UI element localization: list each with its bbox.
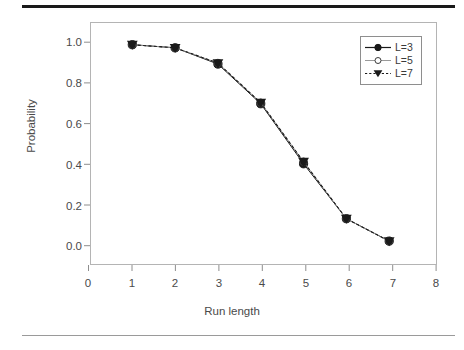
series-line	[132, 45, 389, 241]
series-line	[132, 45, 389, 241]
legend-swatch-open-circle-icon	[364, 54, 392, 67]
x-tick-label-6: 6	[337, 277, 361, 289]
series-l7	[127, 41, 395, 246]
y-tick-label-5: 0.2	[48, 200, 82, 212]
y-tick-label-6: 0.0	[48, 240, 82, 252]
y-tick-label-1: 1.0	[48, 36, 82, 48]
legend-swatch-filled-circle-icon	[364, 41, 392, 54]
plot-area: L=3 L=5 L=7	[90, 22, 437, 265]
y-axis-title: Probability	[25, 71, 37, 181]
series-line	[132, 45, 389, 241]
x-tick-label-4: 4	[250, 277, 274, 289]
y-tick-label-2: 0.8	[48, 77, 82, 89]
figure-bottom-rule	[22, 335, 455, 336]
series-l3	[128, 41, 393, 246]
x-tick-label-7: 7	[381, 277, 405, 289]
x-tick-label-5: 5	[294, 277, 318, 289]
series-l5	[129, 41, 393, 245]
x-tick-label-1: 1	[120, 277, 144, 289]
legend: L=3 L=5 L=7	[360, 36, 422, 85]
x-tick-label-2: 2	[163, 277, 187, 289]
x-tick-label-0: 0	[76, 277, 100, 289]
x-tick-label-3: 3	[207, 277, 231, 289]
legend-entry-l7: L=7	[364, 67, 417, 80]
x-tick-label-8: 8	[424, 277, 448, 289]
x-axis-title: Run length	[0, 305, 464, 317]
legend-label-l3: L=3	[392, 41, 413, 54]
y-tick-label-4: 0.4	[48, 159, 82, 171]
legend-label-l7: L=7	[392, 67, 413, 80]
legend-entry-l3: L=3	[364, 41, 417, 54]
legend-entry-l5: L=5	[364, 54, 417, 67]
y-tick-label-3: 0.6	[48, 118, 82, 130]
legend-label-l5: L=5	[392, 54, 413, 67]
legend-swatch-filled-triangle-down-icon	[364, 67, 392, 80]
probability-vs-run-length-chart: Probability 1.0 0.8 0.6 0.4 0.2 0.0 0 1 …	[0, 0, 464, 350]
